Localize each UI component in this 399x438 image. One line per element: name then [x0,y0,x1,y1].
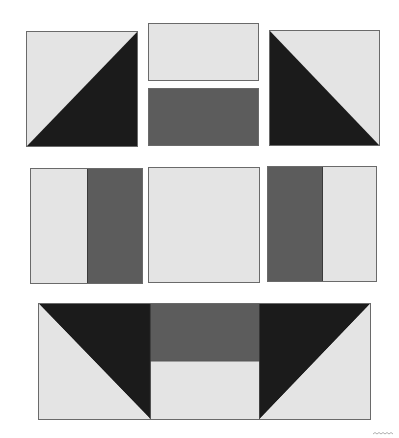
decorative-scallop-icon [372,430,394,436]
assembled-flying-unit [38,303,371,420]
strip-medium [268,167,322,281]
strip-light [322,167,376,281]
seam-line [322,167,323,281]
half-square-triangle-right [269,30,380,146]
stacked-rectangle-top-light [148,23,259,81]
diagonal-triangle-shape [270,31,379,145]
strip-light [31,169,87,283]
seam-line [87,169,88,283]
two-strip-square-right [267,166,377,282]
diagonal-triangle-shape [27,32,137,146]
half-square-triangle-left [26,31,138,147]
assembled-unit-shapes [39,304,370,419]
plain-square [148,167,260,283]
two-strip-square-left [30,168,143,284]
stacked-rectangle-bottom-medium [148,88,259,146]
strip-medium [87,169,142,283]
